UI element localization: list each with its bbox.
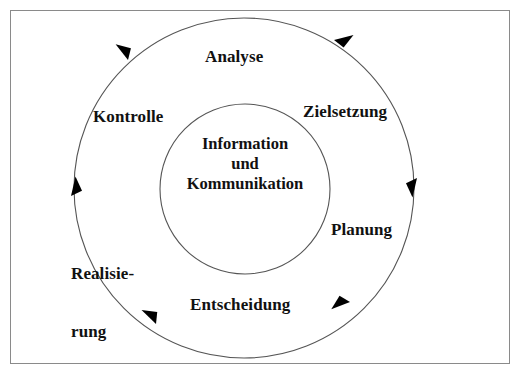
- stage-label-zielsetzung: Zielsetzung: [303, 102, 387, 121]
- stage-label-analyse: Analyse: [205, 47, 263, 66]
- center-core-label: Information und Kommunikation: [145, 134, 345, 194]
- arrowhead-bottom-left-icon: [139, 306, 161, 324]
- arrowhead-top-right-icon: [334, 30, 356, 50]
- stage-label-planung: Planung: [331, 220, 392, 239]
- arrowhead-right-icon: [406, 178, 419, 198]
- arrowhead-left-icon: [69, 176, 82, 196]
- arrowhead-top-left-icon: [112, 40, 134, 60]
- center-core-line2: und: [145, 154, 345, 174]
- stage-label-realisierung-line2: rung: [71, 322, 134, 341]
- stage-label-entscheidung: Entscheidung: [190, 295, 290, 314]
- stage-label-realisierung-line1: Realisie-: [71, 264, 134, 283]
- stage-label-kontrolle: Kontrolle: [93, 107, 163, 126]
- stage-label-realisierung: Realisie- rung: [71, 225, 134, 380]
- arrowhead-bottom-right-icon: [328, 293, 350, 314]
- center-core-line1: Information: [145, 134, 345, 154]
- center-core-line3: Kommunikation: [145, 174, 345, 194]
- diagram-canvas: Analyse Zielsetzung Kontrolle Realisie- …: [0, 0, 522, 380]
